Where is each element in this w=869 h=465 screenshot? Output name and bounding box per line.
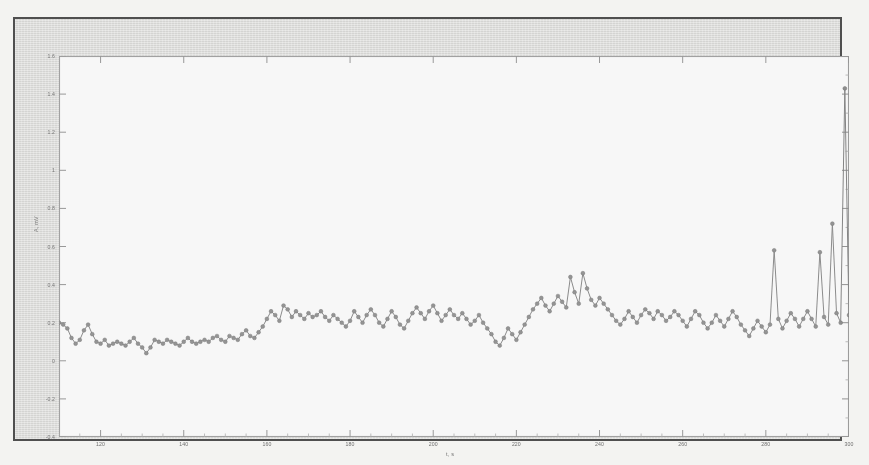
x-tick-label: 300 bbox=[845, 441, 854, 447]
x-tick-label: 260 bbox=[678, 441, 687, 447]
x-axis-title: t, s bbox=[446, 451, 454, 457]
y-tick-label: -0.4 bbox=[29, 434, 55, 440]
y-tick-label: 1.2 bbox=[29, 129, 55, 135]
y-tick-label: -0.2 bbox=[29, 396, 55, 402]
chart-canvas bbox=[59, 56, 849, 437]
x-tick-label: 180 bbox=[346, 441, 355, 447]
y-tick-label: 0.8 bbox=[29, 205, 55, 211]
y-tick-label: 1.6 bbox=[29, 53, 55, 59]
x-tick-label: 220 bbox=[512, 441, 521, 447]
y-axis-title: A, mV bbox=[33, 216, 39, 232]
x-tick-label: 140 bbox=[179, 441, 188, 447]
x-tick-label: 160 bbox=[262, 441, 271, 447]
x-tick-label: 240 bbox=[595, 441, 604, 447]
plot-area bbox=[59, 56, 849, 437]
scanned-page: -0.4-0.200.20.40.60.811.21.41.6 12014016… bbox=[0, 0, 869, 465]
y-tick-label: 0.6 bbox=[29, 244, 55, 250]
x-tick-label: 120 bbox=[96, 441, 105, 447]
x-tick-label: 280 bbox=[761, 441, 770, 447]
x-tick-label: 200 bbox=[429, 441, 438, 447]
y-tick-label: 0.2 bbox=[29, 320, 55, 326]
y-tick-label: 1 bbox=[29, 167, 55, 173]
figure-frame: -0.4-0.200.20.40.60.811.21.41.6 12014016… bbox=[13, 17, 842, 441]
y-tick-label: 0.4 bbox=[29, 282, 55, 288]
y-tick-label: 1.4 bbox=[29, 91, 55, 97]
y-tick-label: 0 bbox=[29, 358, 55, 364]
